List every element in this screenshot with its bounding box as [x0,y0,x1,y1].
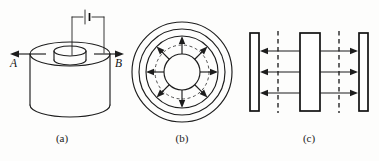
left-gap-arrow-row-2 [260,69,300,76]
caption-a: (a) [56,132,69,145]
inner-cylinder-top-ellipse [54,46,86,56]
panel-c-parallel-plates: (c) [238,0,379,161]
label-terminal-b: B [115,57,122,69]
plate-left [250,33,259,111]
panel-a-cylinder-with-battery: A B (a) [0,0,126,161]
radial-arrow-se [192,82,209,99]
radial-arrow-ne [192,44,209,61]
outer-cylinder [30,42,110,117]
inner-circle [164,54,200,90]
left-gap-arrow-row-1 [260,48,300,55]
panel-b-cross-section: (b) [126,0,238,161]
cylinder-bottom-arc [30,105,110,117]
plate-right [359,33,368,111]
figure-root: A B (a) [0,0,379,161]
left-gap-arrows [260,48,300,97]
battery-symbol [85,10,90,24]
radial-arrows [146,36,218,108]
left-gap-arrow-row-3 [260,90,300,97]
radial-arrow-sw [154,82,171,99]
caption-c: (c) [303,132,316,145]
battery-circuit [72,10,104,55]
plate-middle [300,33,320,111]
inner-cylinder [54,46,86,65]
inner-cylinder-bottom-arc [54,60,86,65]
caption-b: (b) [176,132,189,145]
radial-arrow-nw [154,44,171,61]
label-terminal-a: A [9,57,18,69]
